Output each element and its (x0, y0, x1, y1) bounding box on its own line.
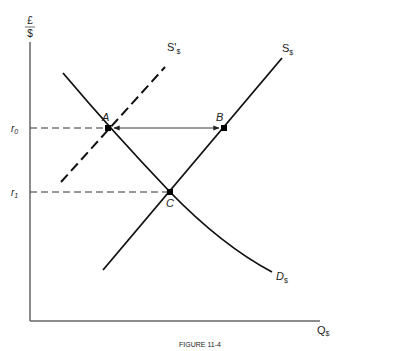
y-axis-label-top: £ (27, 15, 33, 26)
exchange-rate-diagram: £ $ Q$ r0 r1 S'$ S$ D$ A B C FIGURE 11-4 (0, 0, 400, 351)
point-a-marker (105, 125, 111, 131)
point-c-label: C (166, 197, 174, 209)
demand-curve (63, 73, 272, 272)
demand-label: D$ (276, 270, 288, 284)
shifted-supply-label: S'$ (167, 41, 180, 55)
supply-curve (103, 58, 282, 270)
supply-label: S$ (282, 42, 293, 56)
r1-label: r1 (11, 187, 18, 199)
point-b-label: B (216, 111, 223, 123)
figure-caption: FIGURE 11-4 (179, 341, 221, 348)
y-axis-label-bottom: $ (27, 28, 33, 39)
point-a-label: A (101, 111, 109, 123)
r0-label: r0 (11, 123, 18, 135)
point-c-marker (167, 189, 173, 195)
point-b-marker (221, 125, 227, 131)
x-axis-label: Q$ (317, 324, 330, 337)
shifted-supply-curve (61, 67, 165, 182)
x-axis-label-sub: $ (326, 330, 330, 337)
